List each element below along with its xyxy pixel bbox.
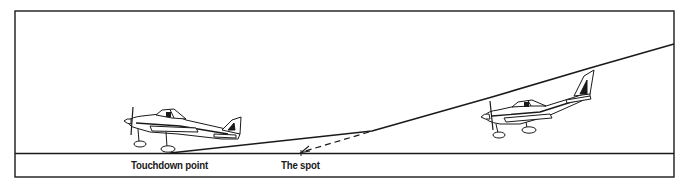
the-spot-label: The spot: [281, 159, 320, 171]
landing-diagram: [0, 0, 687, 189]
diagram-frame: Touchdown point The spot: [0, 0, 687, 189]
touchdown-point-label: Touchdown point: [131, 159, 208, 171]
spot-arrowhead-icon: [301, 146, 310, 153]
flight-path: [170, 44, 674, 153]
airplane-approach-icon: [481, 70, 594, 138]
airplane-touchdown-icon: [124, 107, 241, 152]
